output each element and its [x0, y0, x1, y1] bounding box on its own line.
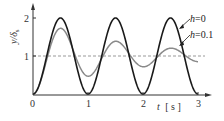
x-tick-label-2: 2	[141, 98, 146, 109]
legend-label-h01: h=0.1	[190, 29, 213, 40]
chart: 2 1 0 1 2 3 t [ s ] y/δs h=0 h=0.1	[0, 0, 224, 121]
x-tick-label-3: 3	[196, 98, 201, 109]
legend-label-h0: h=0	[190, 13, 206, 24]
x-axis-arrow-icon	[205, 93, 212, 97]
series-h0.1	[33, 28, 198, 94]
y-tick-label-1: 1	[24, 51, 29, 62]
y-axis-arrow-icon	[31, 3, 35, 10]
y-tick-label-2: 2	[24, 13, 29, 24]
x-tick-label-0: 0	[30, 98, 35, 109]
x-tick-label-1: 1	[86, 98, 91, 109]
y-axis-label: y/δs	[8, 29, 21, 45]
x-axis-label: t [ s ]	[157, 101, 181, 112]
